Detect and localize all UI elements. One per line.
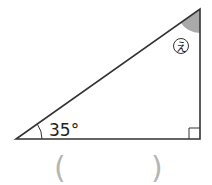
answer-open-paren: ( bbox=[54, 150, 66, 185]
triangle-diagram: 35° え ( ) bbox=[0, 0, 212, 185]
right-angle-marker bbox=[189, 128, 200, 139]
given-angle-arc bbox=[37, 124, 42, 139]
unknown-angle-label: え bbox=[176, 41, 187, 54]
triangle bbox=[16, 9, 200, 139]
given-angle-label: 35° bbox=[49, 120, 79, 140]
answer-close-paren: ) bbox=[151, 150, 163, 185]
